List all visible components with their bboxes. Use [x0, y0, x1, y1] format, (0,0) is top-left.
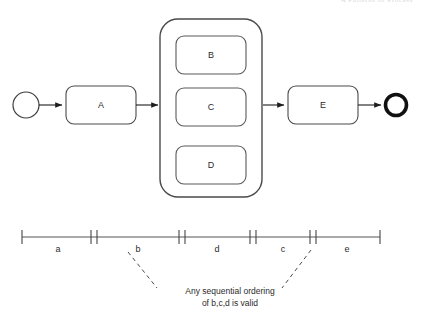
- annotation-leader-left: [128, 252, 157, 288]
- timeline-segment-label-a: a: [55, 244, 60, 254]
- task-b-label: B: [208, 50, 214, 60]
- annotation-line-2: of b,c,d is valid: [202, 298, 258, 308]
- task-e[interactable]: E: [288, 86, 358, 124]
- timeline-segment-label-c: c: [281, 244, 286, 254]
- timeline-segment-label-d: d: [214, 244, 219, 254]
- annotation-leader-right: [282, 250, 311, 288]
- task-a[interactable]: A: [66, 86, 136, 124]
- bpmn-process-diagram: A B C D E: [0, 0, 421, 319]
- task-c-label: C: [208, 102, 215, 112]
- task-d[interactable]: D: [176, 146, 246, 184]
- annotation-line-1: Any sequential ordering: [185, 286, 275, 296]
- task-d-label: D: [208, 160, 215, 170]
- task-e-label: E: [320, 100, 326, 110]
- end-event-icon: [386, 95, 407, 116]
- diagram-canvas: A Patterns of Process A B C: [0, 0, 421, 319]
- timeline-segment-label-b: b: [135, 244, 140, 254]
- task-a-label: A: [98, 100, 104, 110]
- task-c[interactable]: C: [176, 88, 246, 126]
- start-event-icon: [13, 92, 39, 118]
- timeline-segment-label-e: e: [344, 244, 349, 254]
- task-b[interactable]: B: [176, 36, 246, 74]
- execution-timeline: a b d c e: [22, 230, 380, 254]
